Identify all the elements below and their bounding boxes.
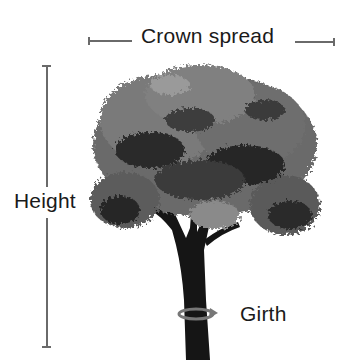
tree-illustration — [0, 0, 353, 364]
girth-label: Girth — [240, 302, 287, 326]
girth-arrowhead-icon — [209, 308, 218, 318]
tree-crown — [90, 65, 320, 235]
